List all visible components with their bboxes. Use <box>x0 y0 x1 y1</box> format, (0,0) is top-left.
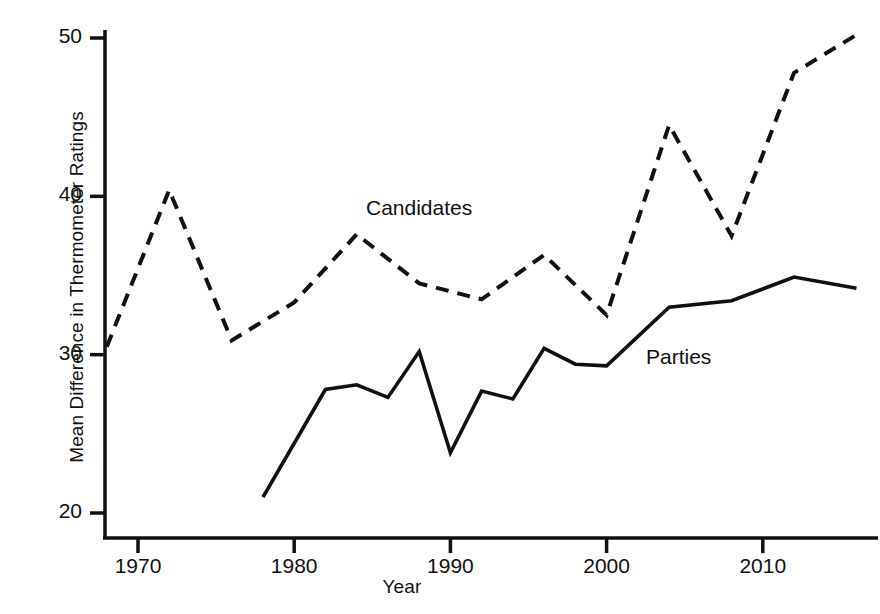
plot-area <box>0 0 880 614</box>
x-axis-ticks <box>138 538 763 553</box>
x-tick-label: 1980 <box>244 554 344 578</box>
x-tick-label: 2000 <box>557 554 657 578</box>
y-tick-label: 30 <box>30 341 82 365</box>
series-line-candidates <box>107 35 857 347</box>
y-tick-label: 50 <box>30 24 82 48</box>
x-tick-label: 2010 <box>713 554 813 578</box>
chart-figure: Mean Difference in Thermometer Ratings Y… <box>0 0 880 614</box>
x-tick-label: 1970 <box>88 554 188 578</box>
x-tick-label: 1990 <box>400 554 500 578</box>
axis-lines <box>103 30 878 538</box>
series-line-parties <box>263 277 857 497</box>
y-axis-ticks <box>90 38 105 513</box>
y-tick-label: 40 <box>30 182 82 206</box>
y-tick-label: 20 <box>30 499 82 523</box>
